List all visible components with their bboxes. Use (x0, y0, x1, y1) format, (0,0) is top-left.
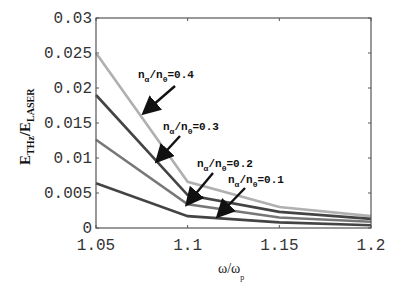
arrow-icon (145, 86, 175, 112)
x-tick-label: 1.2 (357, 237, 386, 255)
x-tick-label: 1.15 (260, 237, 298, 255)
y-tick-labels: 00.0050.010.0150.020.0250.03 (44, 10, 92, 238)
line-chart: nα/n0=0.4nα/n0=0.3nα/n0=0.2nα/n0=0.1 1.0… (0, 0, 402, 291)
axis-ticks (96, 18, 371, 228)
x-axis-label: ω/ωp (218, 261, 244, 282)
y-tick-label: 0.01 (54, 150, 92, 168)
y-axis-label: ETHz/ELASER (17, 88, 36, 165)
plot-frame (96, 18, 371, 228)
x-tick-labels: 1.051.11.151.2 (77, 237, 386, 255)
x-tick-label: 1.05 (77, 237, 115, 255)
y-tick-label: 0.015 (44, 115, 92, 133)
x-tick-label: 1.1 (173, 237, 202, 255)
y-tick-label: 0 (82, 220, 92, 238)
series-annotation-label: nα/n0=0.2 (197, 158, 253, 173)
series-annotation-label: nα/n0=0.3 (163, 121, 219, 136)
y-tick-label: 0.02 (54, 80, 92, 98)
y-tick-label: 0.005 (44, 185, 92, 203)
series-annotation-label: nα/n0=0.1 (228, 174, 284, 189)
series-annotation-label: nα/n0=0.4 (138, 69, 194, 84)
y-tick-label: 0.025 (44, 45, 92, 63)
y-tick-label: 0.03 (54, 10, 92, 28)
